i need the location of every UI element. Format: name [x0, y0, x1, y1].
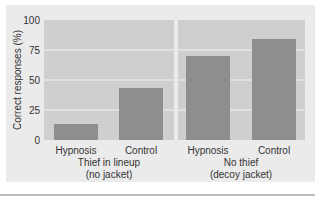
y-tick-0: 0 [20, 135, 40, 146]
group-label-line2: (decoy jacket) [181, 169, 301, 181]
divider [0, 194, 315, 196]
group-label-nothief: No thief (decoy jacket) [181, 157, 301, 181]
x-tick-thief-control: Control [111, 145, 171, 156]
bar-thief-control [119, 88, 163, 140]
panel-thief-in-lineup [44, 20, 174, 140]
bar-nothief-hypnosis [186, 56, 230, 140]
gridline-75 [44, 49, 174, 51]
y-tick-100: 100 [20, 15, 40, 26]
group-label-line2: (no jacket) [49, 169, 169, 181]
y-tick-75: 75 [20, 45, 40, 56]
x-tick-nothief-control: Control [244, 145, 304, 156]
group-label-line1: Thief in lineup [49, 157, 169, 169]
bar-nothief-control [252, 39, 296, 140]
x-tick-thief-hypnosis: Hypnosis [46, 145, 106, 156]
x-tick-nothief-hypnosis: Hypnosis [178, 145, 238, 156]
y-tick-50: 50 [20, 75, 40, 86]
bar-thief-hypnosis [54, 124, 98, 140]
group-label-line1: No thief [181, 157, 301, 169]
panel-no-thief [178, 20, 305, 140]
y-tick-25: 25 [20, 105, 40, 116]
group-label-thief: Thief in lineup (no jacket) [49, 157, 169, 181]
gridline-50 [44, 79, 174, 81]
